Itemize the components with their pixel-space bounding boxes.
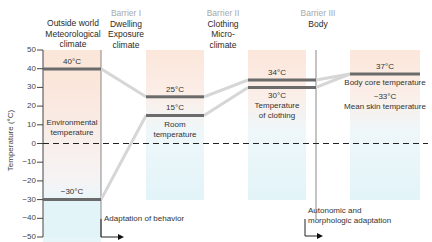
autonomic-text: morphologic adaptation (308, 216, 391, 226)
cloth-temp-label: of clothing (248, 111, 306, 121)
bar-dwelling-15 (146, 114, 204, 117)
header-text: Outside world (33, 18, 113, 29)
tick-label: −40 (6, 213, 36, 222)
dwelling-high-label: 25°C (146, 85, 204, 95)
behavior-adaptation-label: Adaptation of behavior (104, 214, 184, 223)
tick-label: −50 (6, 232, 36, 241)
header-text: Micro- (198, 29, 248, 40)
clothing-high-label: 34°C (248, 68, 306, 78)
header-text: climate (198, 40, 248, 51)
bar-clothing-34 (248, 79, 316, 82)
header-text: Exposure (102, 29, 150, 40)
y-axis-title: Temperature (°C) (6, 101, 15, 181)
header-text: Meteorological (33, 29, 113, 40)
dwelling-low-label: 15°C (146, 103, 204, 113)
outside-high-label: 40°C (43, 57, 101, 67)
header-text: Dwelling (102, 19, 150, 30)
header-body: Barrier III Body (293, 8, 343, 29)
header-text: Body (293, 19, 343, 30)
tick-label: 50 (6, 45, 36, 54)
body-core-label: Body core temperature (336, 78, 432, 88)
header-outside-world: Outside world Meteorological climate (33, 18, 113, 50)
header-dwelling: Barrier I Dwelling Exposure climate (102, 8, 150, 50)
autonomic-adaptation-label: Autonomic and morphologic adaptation (308, 206, 391, 226)
body-core-value: 37°C (340, 62, 430, 72)
barrier-label: Barrier II (198, 8, 248, 19)
skin-label: Mean skin temperature (336, 102, 432, 112)
bar-body-37 (350, 73, 420, 76)
outside-low-label: −30°C (43, 187, 101, 197)
barrier-label: Barrier I (102, 8, 150, 19)
tick-label: −30 (6, 195, 36, 204)
barrier-label: Barrier III (293, 8, 343, 19)
header-text: climate (102, 40, 150, 51)
bar-dwelling-25 (146, 95, 204, 98)
skin-value: ~33°C (340, 92, 430, 102)
header-text: climate (33, 39, 113, 50)
bar-outside-minus30 (43, 198, 101, 201)
header-text: Clothing (198, 19, 248, 30)
env-temp-label: temperature (43, 128, 101, 138)
header-clothing: Barrier II Clothing Micro- climate (198, 8, 248, 50)
bar-clothing-30 (248, 86, 316, 89)
room-temp-label: temperature (146, 130, 204, 140)
autonomic-text: Autonomic and (308, 206, 391, 216)
tick-label: 40 (6, 64, 36, 73)
cloth-temp-label: Temperature (248, 101, 306, 111)
env-temp-label: Environmental (43, 118, 101, 128)
tick-label: 30 (6, 82, 36, 91)
bar-outside-40 (43, 68, 101, 71)
room-temp-label: Room (146, 120, 204, 130)
clothing-low-label: 30°C (248, 91, 306, 101)
